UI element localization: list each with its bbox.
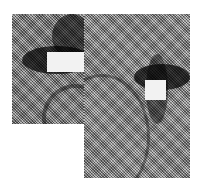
right-photo-panel (84, 14, 190, 178)
white-mask-right (145, 80, 166, 100)
white-mask-left (47, 52, 85, 72)
